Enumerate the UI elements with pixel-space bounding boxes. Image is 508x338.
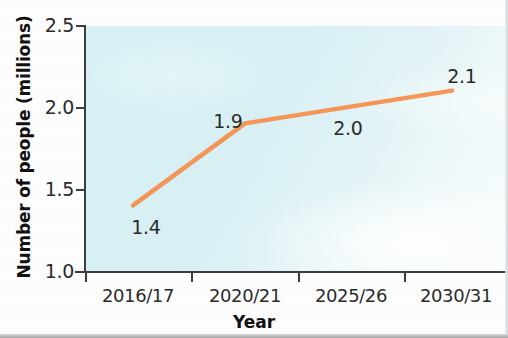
y-axis-tick-label-2-0: 2.0 (28, 96, 74, 118)
scan-bottom-edge (0, 334, 508, 338)
x-axis-tick-origin (85, 273, 87, 282)
x-axis-tick-3 (404, 273, 406, 282)
y-axis-tick-2-5 (76, 25, 85, 27)
y-axis-line (84, 25, 86, 273)
data-label-2030-31: 2.1 (417, 65, 507, 87)
x-axis-tick-label-2020-21: 2020/21 (185, 285, 305, 306)
x-axis-tick-1 (191, 273, 193, 282)
y-axis-title: Number of people (millions) (14, 11, 34, 283)
x-axis-tick-label-2025-26: 2025/26 (291, 285, 411, 306)
data-label-2016-17: 1.4 (101, 216, 191, 238)
y-axis-tick-1-0 (76, 271, 85, 273)
y-axis-tick-label-1-5: 1.5 (28, 178, 74, 200)
y-axis-tick-label-1-0: 1.0 (28, 260, 74, 282)
x-axis-tick-label-2030-31: 2030/31 (396, 285, 508, 306)
x-axis-tick-2 (298, 273, 300, 282)
line-chart-figure: 2.5 2.0 1.5 1.0 2016/17 2020/21 2025/26 … (0, 0, 508, 338)
data-label-2025-26: 2.0 (303, 117, 393, 139)
y-axis-tick-label-2-5: 2.5 (28, 14, 74, 36)
x-axis-tick-label-2016-17: 2016/17 (78, 285, 198, 306)
y-axis-tick-1-5 (76, 189, 85, 191)
y-axis-tick-2-0 (76, 107, 85, 109)
data-label-2020-21: 1.9 (183, 110, 273, 132)
x-axis-title: Year (0, 312, 508, 332)
x-axis-line (75, 271, 508, 273)
